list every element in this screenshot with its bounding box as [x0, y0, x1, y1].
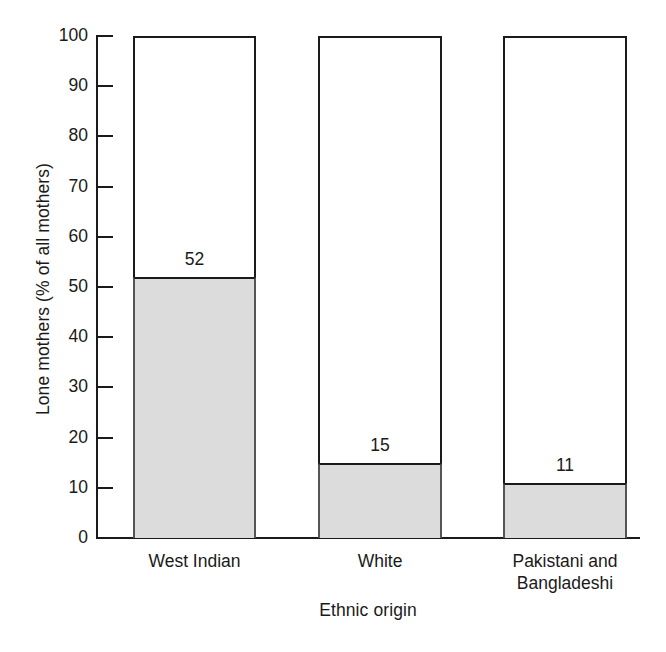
- y-tick-label-text: 40: [44, 328, 88, 346]
- y-tick-mark: [96, 135, 113, 137]
- y-tick-label: 30: [0, 378, 88, 396]
- y-tick-label-text: 90: [44, 77, 88, 95]
- y-tick-mark: [96, 336, 113, 338]
- y-tick-label: 0: [0, 529, 88, 547]
- category-label: West Indian: [93, 550, 296, 572]
- y-tick-label: 80: [0, 127, 88, 145]
- x-axis-label: Ethnic origin: [96, 600, 640, 621]
- y-tick-label-text: 70: [44, 178, 88, 196]
- y-tick-label-text: 0: [44, 529, 88, 547]
- bar-chart-figure: Lone mothers (% of all mothers) 01020304…: [0, 0, 666, 652]
- y-tick-mark: [96, 85, 113, 87]
- y-tick-label: 70: [0, 178, 88, 196]
- y-tick-mark: [96, 286, 113, 288]
- y-tick-label: 50: [0, 278, 88, 296]
- bar-value-label: 52: [133, 251, 256, 269]
- bar-value-label: 11: [503, 457, 627, 475]
- y-tick-mark: [96, 437, 113, 439]
- bar-fill[interactable]: [503, 483, 627, 538]
- y-tick-label: 10: [0, 479, 88, 497]
- y-tick-mark: [96, 236, 113, 238]
- y-tick-label: 40: [0, 328, 88, 346]
- y-tick-label-text: 60: [44, 228, 88, 246]
- y-tick-label: 90: [0, 77, 88, 95]
- y-tick-mark: [96, 386, 113, 388]
- y-tick-mark: [96, 487, 113, 489]
- bar-value-label: 15: [318, 437, 442, 455]
- y-tick-mark: [96, 35, 113, 37]
- y-tick-label-text: 30: [44, 378, 88, 396]
- y-tick-label-text: 20: [44, 429, 88, 447]
- y-tick-label: 60: [0, 228, 88, 246]
- bar-fill[interactable]: [133, 277, 256, 538]
- bar-fill[interactable]: [318, 463, 442, 538]
- y-tick-label: 20: [0, 429, 88, 447]
- category-label: White: [278, 550, 482, 572]
- y-tick-label-text: 100: [44, 27, 88, 45]
- y-tick-label-text: 80: [44, 127, 88, 145]
- category-label: Pakistani and Bangladeshi: [463, 550, 666, 594]
- y-tick-label-text: 10: [44, 479, 88, 497]
- y-tick-label-text: 50: [44, 278, 88, 296]
- y-tick-mark: [96, 186, 113, 188]
- y-tick-label: 100: [0, 27, 88, 45]
